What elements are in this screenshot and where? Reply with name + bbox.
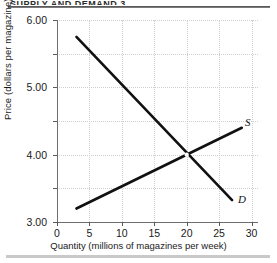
x-tick-mark bbox=[187, 222, 188, 226]
x-axis-title: Quantity (millions of magazines per week… bbox=[0, 240, 277, 251]
equilibrium-point bbox=[185, 153, 189, 157]
x-axis-line bbox=[57, 222, 258, 223]
x-tick-mark bbox=[154, 222, 155, 226]
x-tick-mark bbox=[122, 222, 123, 226]
demand-curve bbox=[76, 37, 232, 200]
x-tick-label: 0 bbox=[54, 227, 60, 239]
page-heading-sliver: SUPPLY AND DEMAND 3 bbox=[10, 0, 190, 5]
supply-curve bbox=[76, 128, 241, 209]
plot-area: 01.002.003.004.005.006.00 051015202530 S… bbox=[57, 20, 258, 222]
y-tick-label: 5.00 bbox=[27, 81, 47, 93]
supply-curve-label: S bbox=[245, 116, 251, 128]
x-tick-mark bbox=[89, 222, 90, 226]
curves-layer bbox=[57, 20, 258, 222]
y-tick-label: 4.00 bbox=[27, 149, 47, 161]
supply-demand-figure: SUPPLY AND DEMAND 3 01.002.003.004.005.0… bbox=[0, 0, 277, 263]
x-tick-label: 25 bbox=[213, 227, 225, 239]
x-tick-mark bbox=[57, 222, 58, 226]
x-tick-label: 10 bbox=[116, 227, 128, 239]
x-tick-label: 30 bbox=[246, 227, 258, 239]
demand-curve-label: D bbox=[238, 193, 246, 205]
top-divider-rule bbox=[8, 6, 270, 8]
x-tick-label: 15 bbox=[148, 227, 160, 239]
x-tick-label: 5 bbox=[86, 227, 92, 239]
x-tick-mark bbox=[252, 222, 253, 226]
bottom-divider-rule bbox=[6, 255, 270, 258]
y-tick-label: 6.00 bbox=[27, 14, 47, 26]
x-tick-mark bbox=[219, 222, 220, 226]
y-axis-title: Price (dollars per magazine) bbox=[2, 0, 13, 120]
y-tick-label: 3.00 bbox=[27, 216, 47, 228]
x-tick-label: 20 bbox=[181, 227, 193, 239]
